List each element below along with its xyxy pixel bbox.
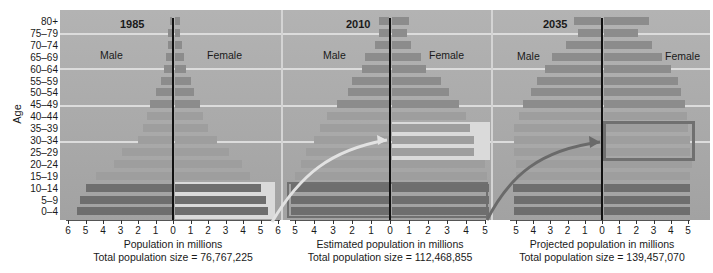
panel-2010-male-label: Male [323, 49, 346, 61]
panel-2010-female-label: Female [429, 49, 464, 61]
cohort-arrows [0, 0, 713, 273]
panel-2010-title: 2010 [346, 18, 370, 30]
arrow-1985-to-2010 [272, 140, 387, 222]
panel-1985-male-label: Male [100, 49, 123, 61]
panel-1985-xlabel: Population in millions [83, 238, 263, 250]
panel-2035-title: 2035 [543, 18, 567, 30]
panel-1985-total: Total population size = 76,767,225 [83, 251, 263, 263]
panel-2035-xlabel: Projected population in millions [512, 238, 692, 250]
panel-2010-xlabel: Estimated population in millions [300, 238, 480, 250]
panel-1985-title: 1985 [120, 18, 144, 30]
panel-2035-total: Total population size = 139,457,070 [512, 251, 692, 263]
panel-2035-male-label: Male [517, 50, 540, 62]
panel-2035-female-label: Female [665, 50, 700, 62]
arrow-2010-to-2035 [487, 142, 600, 220]
panel-1985-female-label: Female [207, 49, 242, 61]
panel-2010-total: Total population size = 112,468,855 [300, 251, 480, 263]
